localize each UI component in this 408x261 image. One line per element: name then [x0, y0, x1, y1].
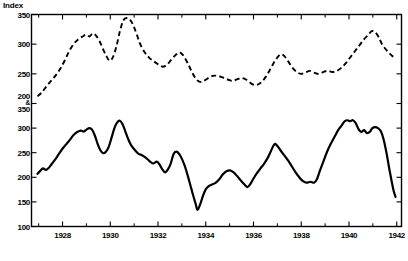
chart-figure: Index 350300250200&350300250200150100 19…	[0, 0, 408, 261]
solid-series-line	[37, 120, 395, 210]
dashed-series-line	[37, 18, 395, 96]
plot-area	[0, 0, 408, 261]
